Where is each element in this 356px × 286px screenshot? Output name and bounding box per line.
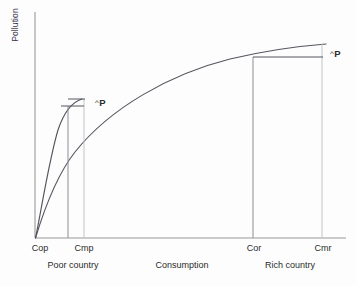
rich-country-curve	[36, 44, 327, 238]
delta-p-rich-letter: P	[334, 48, 340, 59]
x-tick-label-cor: Cor	[237, 243, 271, 253]
group-label-rich-country: Rich country	[244, 260, 336, 270]
delta-p-rich-label: ^P	[330, 48, 341, 59]
environmental-kuznets-curve-figure: Pollution ^P ^P Cop Cmp Cor Cmr Poor cou…	[0, 0, 356, 286]
x-tick-label-cmr: Cmr	[306, 243, 340, 253]
delta-p-poor-letter: P	[99, 97, 105, 108]
x-axis-title: Consumption	[134, 260, 230, 270]
x-tick-label-cmp: Cmp	[67, 243, 101, 253]
delta-p-poor-label: ^P	[95, 97, 106, 108]
y-axis-title: Pollution	[10, 0, 20, 60]
group-label-poor-country: Poor country	[26, 260, 120, 270]
x-tick-label-cop: Cop	[23, 243, 57, 253]
